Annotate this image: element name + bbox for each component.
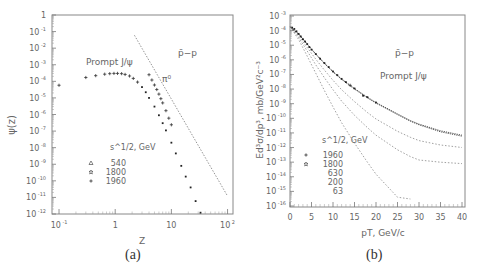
y-tick-label: 10 -10 xyxy=(266,112,286,123)
data-point xyxy=(180,165,182,167)
plus-marker-icon xyxy=(94,74,97,77)
y-tick-label: 10 -1 xyxy=(29,26,46,37)
data-point xyxy=(293,28,295,30)
y-tick-label: 10 -5 xyxy=(29,92,46,103)
plus-marker-icon xyxy=(349,84,352,87)
x-axis-a: 10 -111010 2 xyxy=(51,209,235,230)
plus-marker-icon xyxy=(157,92,160,95)
caption-b: (b) xyxy=(366,247,382,263)
legend-label: 1800 xyxy=(106,168,126,177)
legend-label: 1960 xyxy=(106,177,126,186)
data-point xyxy=(165,129,167,131)
y-tick-label: 10 -4 xyxy=(29,75,46,86)
curve-200 xyxy=(290,27,462,164)
y-tick-label: 10 -9 xyxy=(269,98,286,109)
y-tick-label: 1 xyxy=(41,11,46,20)
plus-marker-icon xyxy=(57,84,60,87)
curve-63 xyxy=(290,27,410,199)
x-tick-label: 10 2 xyxy=(220,219,235,230)
plus-marker-icon xyxy=(147,73,150,76)
plot-frame-a xyxy=(52,15,233,214)
legend-label: 1800 xyxy=(323,160,343,169)
data-point xyxy=(311,49,313,51)
legend-title-a: s^1/2, GeV xyxy=(110,143,156,152)
legend-label: 1960 xyxy=(323,151,343,160)
y-tick-label: 10 -8 xyxy=(29,142,46,153)
y-tick-label: 10 -16 xyxy=(266,200,286,211)
plus-marker-icon xyxy=(155,88,158,91)
plus-marker-icon xyxy=(132,77,135,80)
annotation-ppbar-a: p̄−p xyxy=(178,48,197,58)
data-point xyxy=(319,58,321,60)
plus-marker-icon xyxy=(108,72,111,75)
annotation-pi0-a: π⁰ xyxy=(162,74,171,84)
data-point xyxy=(300,36,302,38)
y-axis-label-a: ψ(z) xyxy=(6,115,17,135)
plot-area-b xyxy=(290,27,462,199)
y-tick-label: 10 -2 xyxy=(29,42,46,53)
data-point xyxy=(328,66,330,68)
plus-marker-icon xyxy=(128,74,131,77)
y-tick-label: 10 -5 xyxy=(269,39,286,50)
x-axis-b: 0510152025303540 xyxy=(287,202,467,222)
x-axis-label-b: pT, GeV/c xyxy=(361,228,405,238)
chart-panel-b: 10 -310 -410 -510 -610 -710 -810 -910 -1… xyxy=(255,10,467,238)
data-point xyxy=(291,27,293,29)
data-point xyxy=(154,106,156,108)
data-point xyxy=(304,41,306,43)
y-tick-label: 10 -13 xyxy=(266,156,286,167)
plus-marker-icon xyxy=(161,101,164,104)
figure: 110 -110 -210 -310 -410 -510 -610 -710 -… xyxy=(0,0,479,268)
y-tick-label: 10 -10 xyxy=(26,175,46,186)
x-tick-label: 1 xyxy=(113,221,118,230)
plus-marker-icon xyxy=(89,179,92,182)
x-tick-label: 15 xyxy=(349,213,359,222)
y-tick-label: 10 -15 xyxy=(266,185,286,196)
data-point xyxy=(308,46,310,48)
caption-a: (a) xyxy=(125,247,141,263)
star-marker-icon xyxy=(304,162,308,166)
legend-title-b: s^1/2, GeV xyxy=(322,136,368,145)
data-point xyxy=(362,95,364,97)
chart-panel-a: 110 -110 -210 -310 -410 -510 -610 -710 -… xyxy=(6,11,235,246)
data-point xyxy=(375,102,377,104)
plus-marker-icon xyxy=(103,73,106,76)
data-point xyxy=(195,200,197,202)
plus-marker-icon xyxy=(123,73,126,76)
triangle-marker-icon xyxy=(89,161,93,165)
plus-marker-icon xyxy=(116,72,119,75)
plus-marker-icon xyxy=(170,123,173,126)
data-point xyxy=(354,88,356,90)
data-point xyxy=(332,71,334,73)
data-point xyxy=(141,86,143,88)
x-tick-label: 30 xyxy=(414,213,424,222)
y-tick-label: 10 -6 xyxy=(29,109,46,120)
data-point xyxy=(296,30,298,32)
x-tick-label: 20 xyxy=(371,213,381,222)
legend-label: 200 xyxy=(328,178,343,187)
y-tick-label: 10 -3 xyxy=(269,10,286,21)
y-tick-label: 10 -7 xyxy=(29,125,46,136)
y-tick-label: 10 -14 xyxy=(266,171,286,182)
plot-area-a xyxy=(57,35,227,213)
plus-marker-icon xyxy=(159,97,162,100)
fit-line xyxy=(134,35,227,196)
y-tick-label: 10 -11 xyxy=(26,191,46,202)
plus-marker-icon xyxy=(164,109,167,112)
data-point xyxy=(306,43,308,45)
annotation-prompt-jpsi-b: Prompt J/ψ xyxy=(380,71,427,81)
plus-marker-icon xyxy=(153,83,156,86)
data-point xyxy=(190,187,192,189)
legend-a: s^1/2, GeV 54018001960 xyxy=(89,143,156,186)
x-axis-label-a: Z xyxy=(139,236,145,246)
annotation-prompt-jpsi-a: Prompt J/ψ xyxy=(86,57,133,67)
plus-marker-icon xyxy=(120,72,123,75)
y-tick-label: 10 -11 xyxy=(266,127,286,138)
y-tick-label: 10 -9 xyxy=(29,158,46,169)
y-tick-label: 10 -12 xyxy=(26,208,46,219)
y-tick-label: 10 -4 xyxy=(269,25,286,36)
legend-b: s^1/2, GeV 1960180063020063 xyxy=(304,136,368,196)
y-tick-label: 10 -12 xyxy=(266,142,286,153)
data-point xyxy=(185,176,187,178)
plot-frame-b xyxy=(290,15,465,207)
